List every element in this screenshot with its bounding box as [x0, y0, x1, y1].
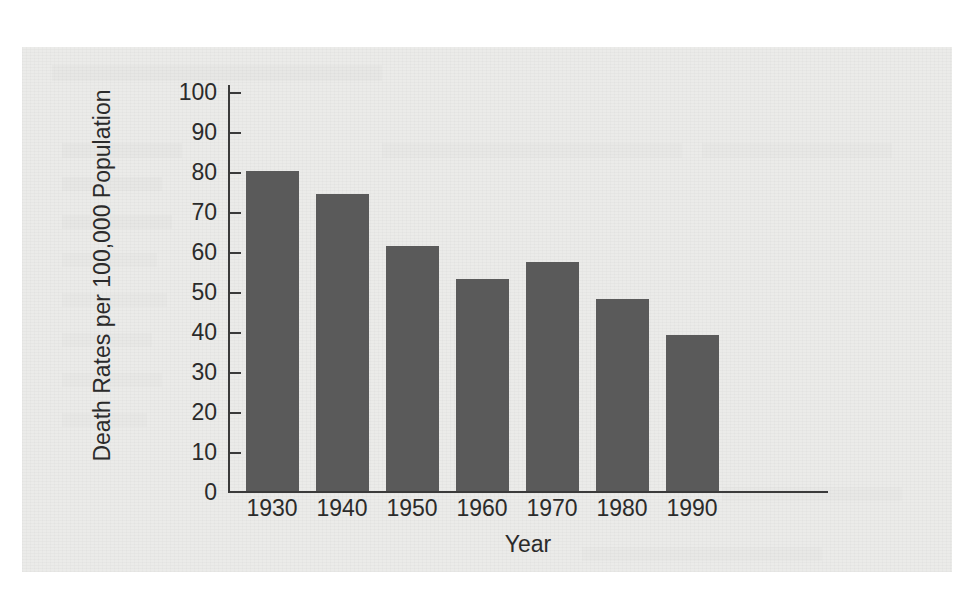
bar-1970	[526, 262, 579, 491]
y-tick-mark-60	[230, 252, 241, 254]
y-tick-label-50: 50	[147, 281, 217, 304]
y-axis-title: Death Rates per 100,000 Population	[89, 66, 116, 486]
y-tick-label-40: 40	[147, 321, 217, 344]
bar-1990	[666, 335, 719, 491]
screenshot-root: 100 90 80 70 60 50 40 30 20 10 0 1930 19…	[0, 0, 978, 606]
x-axis-title: Year	[428, 531, 628, 558]
x-tick-label-1990: 1990	[642, 497, 742, 520]
figure-panel: 100 90 80 70 60 50 40 30 20 10 0 1930 19…	[22, 47, 952, 572]
y-tick-label-0: 0	[147, 481, 217, 504]
y-tick-label-80: 80	[147, 161, 217, 184]
y-tick-mark-10	[230, 452, 241, 454]
y-tick-label-70: 70	[147, 201, 217, 224]
y-tick-mark-100	[230, 92, 241, 94]
y-tick-mark-40	[230, 332, 241, 334]
y-tick-label-20: 20	[147, 401, 217, 424]
y-tick-mark-50	[230, 292, 241, 294]
y-tick-mark-20	[230, 412, 241, 414]
y-tick-label-90: 90	[147, 121, 217, 144]
bar-1930	[246, 171, 299, 491]
y-tick-mark-80	[230, 172, 241, 174]
y-tick-label-60: 60	[147, 241, 217, 264]
bar-1960	[456, 279, 509, 491]
y-tick-mark-30	[230, 372, 241, 374]
y-tick-mark-70	[230, 212, 241, 214]
x-axis-line	[228, 491, 828, 493]
y-tick-label-10: 10	[147, 441, 217, 464]
y-tick-mark-90	[230, 132, 241, 134]
y-tick-label-100: 100	[147, 81, 217, 104]
y-axis-line	[228, 85, 230, 492]
bar-1950	[386, 246, 439, 491]
bar-1940	[316, 194, 369, 491]
y-tick-label-30: 30	[147, 361, 217, 384]
bar-1980	[596, 299, 649, 491]
plot-area: 100 90 80 70 60 50 40 30 20 10 0 1930 19…	[22, 47, 952, 572]
